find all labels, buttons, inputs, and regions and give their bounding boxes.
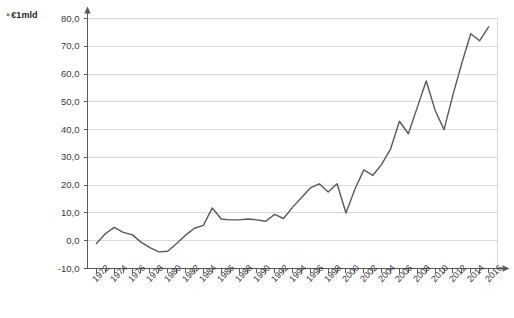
y-axis-arrow-icon bbox=[84, 7, 90, 14]
y-axis-tick-label: 60,0 bbox=[44, 68, 80, 79]
data-series-line bbox=[96, 27, 488, 252]
chart-container: ×€1mld 80,070,060,050,040,030,020,010,00… bbox=[0, 0, 514, 318]
y-axis-tick-label: 0,0 bbox=[44, 235, 80, 246]
y-axis-tick-label: -10,0 bbox=[44, 263, 80, 274]
y-axis-tick-label: 50,0 bbox=[44, 96, 80, 107]
y-axis-tick-label: 40,0 bbox=[44, 124, 80, 135]
y-axis-tick-label: 70,0 bbox=[44, 40, 80, 51]
y-axis-tick-label: 10,0 bbox=[44, 207, 80, 218]
y-axis-tick-label: 30,0 bbox=[44, 151, 80, 162]
y-axis-tick-label: 80,0 bbox=[44, 13, 80, 24]
y-axis-tick-label: 20,0 bbox=[44, 179, 80, 190]
